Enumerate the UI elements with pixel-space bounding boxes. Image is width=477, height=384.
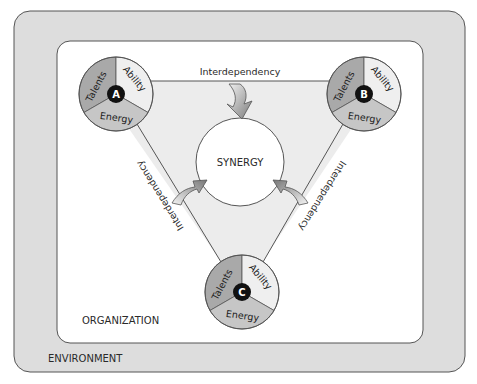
member-c: Talents Ability Energy C	[205, 255, 279, 329]
synergy-label: SYNERGY	[217, 157, 264, 168]
link-top-label: Interdependency	[200, 66, 281, 77]
organization-label: ORGANIZATION	[82, 315, 159, 326]
badge-letter: B	[360, 89, 368, 100]
badge-letter: C	[238, 287, 245, 298]
member-a: Talents Ability Energy A	[79, 57, 153, 131]
member-b: Talents Ability Energy B	[327, 57, 401, 131]
environment-label: ENVIRONMENT	[48, 353, 123, 364]
organization-synergy-diagram: ENVIRONMENT ORGANIZATION SYNERGY Interde…	[0, 0, 477, 384]
badge-letter: A	[112, 89, 120, 100]
